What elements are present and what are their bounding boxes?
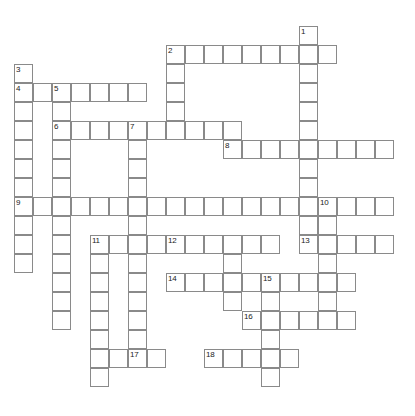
crossword-cell[interactable] <box>204 45 223 64</box>
crossword-cell[interactable] <box>109 197 128 216</box>
crossword-cell[interactable] <box>280 349 299 368</box>
crossword-cell[interactable] <box>90 349 109 368</box>
crossword-cell[interactable] <box>14 121 33 140</box>
crossword-cell[interactable] <box>242 45 261 64</box>
crossword-cell[interactable] <box>90 273 109 292</box>
crossword-cell[interactable] <box>223 121 242 140</box>
crossword-cell[interactable] <box>14 178 33 197</box>
crossword-cell[interactable] <box>90 292 109 311</box>
crossword-cell[interactable] <box>128 178 147 197</box>
crossword-cell[interactable] <box>128 83 147 102</box>
crossword-cell[interactable] <box>375 197 394 216</box>
crossword-cell[interactable] <box>318 292 337 311</box>
crossword-cell[interactable] <box>242 273 261 292</box>
crossword-cell[interactable] <box>166 235 185 254</box>
crossword-cell[interactable] <box>52 254 71 273</box>
crossword-cell[interactable] <box>280 311 299 330</box>
crossword-cell[interactable] <box>52 273 71 292</box>
crossword-cell[interactable] <box>318 273 337 292</box>
crossword-cell[interactable] <box>280 273 299 292</box>
crossword-cell[interactable] <box>223 292 242 311</box>
crossword-cell[interactable] <box>242 311 261 330</box>
crossword-cell[interactable] <box>166 83 185 102</box>
crossword-cell[interactable] <box>337 140 356 159</box>
crossword-cell[interactable] <box>52 197 71 216</box>
crossword-cell[interactable] <box>185 235 204 254</box>
crossword-cell[interactable] <box>147 349 166 368</box>
crossword-cell[interactable] <box>375 140 394 159</box>
crossword-cell[interactable] <box>33 83 52 102</box>
crossword-cell[interactable] <box>14 254 33 273</box>
crossword-cell[interactable] <box>318 235 337 254</box>
crossword-cell[interactable] <box>204 235 223 254</box>
crossword-cell[interactable] <box>299 159 318 178</box>
crossword-cell[interactable] <box>90 368 109 387</box>
crossword-cell[interactable] <box>52 159 71 178</box>
crossword-cell[interactable] <box>337 197 356 216</box>
crossword-cell[interactable] <box>128 159 147 178</box>
crossword-cell[interactable] <box>166 45 185 64</box>
crossword-cell[interactable] <box>90 311 109 330</box>
crossword-cell[interactable] <box>128 273 147 292</box>
crossword-cell[interactable] <box>90 197 109 216</box>
crossword-cell[interactable] <box>204 273 223 292</box>
crossword-cell[interactable] <box>109 235 128 254</box>
crossword-cell[interactable] <box>71 83 90 102</box>
crossword-cell[interactable] <box>128 140 147 159</box>
crossword-cell[interactable] <box>261 349 280 368</box>
crossword-cell[interactable] <box>185 273 204 292</box>
crossword-cell[interactable] <box>71 197 90 216</box>
crossword-cell[interactable] <box>299 311 318 330</box>
crossword-cell[interactable] <box>52 121 71 140</box>
crossword-cell[interactable] <box>14 159 33 178</box>
crossword-cell[interactable] <box>280 45 299 64</box>
crossword-cell[interactable] <box>261 311 280 330</box>
crossword-cell[interactable] <box>318 311 337 330</box>
crossword-cell[interactable] <box>299 216 318 235</box>
crossword-cell[interactable] <box>166 102 185 121</box>
crossword-grid[interactable]: 123456789101112131415161718 <box>0 0 415 416</box>
crossword-cell[interactable] <box>128 197 147 216</box>
crossword-cell[interactable] <box>14 235 33 254</box>
crossword-cell[interactable] <box>318 216 337 235</box>
crossword-cell[interactable] <box>185 121 204 140</box>
crossword-cell[interactable] <box>299 64 318 83</box>
crossword-cell[interactable] <box>185 197 204 216</box>
crossword-cell[interactable] <box>109 121 128 140</box>
crossword-cell[interactable] <box>185 45 204 64</box>
crossword-cell[interactable] <box>109 349 128 368</box>
crossword-cell[interactable] <box>52 235 71 254</box>
crossword-cell[interactable] <box>128 121 147 140</box>
crossword-cell[interactable] <box>299 178 318 197</box>
crossword-cell[interactable] <box>318 140 337 159</box>
crossword-cell[interactable] <box>90 83 109 102</box>
crossword-cell[interactable] <box>356 140 375 159</box>
crossword-cell[interactable] <box>356 197 375 216</box>
crossword-cell[interactable] <box>299 140 318 159</box>
crossword-cell[interactable] <box>356 235 375 254</box>
crossword-cell[interactable] <box>223 197 242 216</box>
crossword-cell[interactable] <box>14 140 33 159</box>
crossword-cell[interactable] <box>337 311 356 330</box>
crossword-cell[interactable] <box>261 235 280 254</box>
crossword-cell[interactable] <box>337 235 356 254</box>
crossword-cell[interactable] <box>261 140 280 159</box>
crossword-cell[interactable] <box>223 349 242 368</box>
crossword-cell[interactable] <box>261 197 280 216</box>
crossword-cell[interactable] <box>280 197 299 216</box>
crossword-cell[interactable] <box>33 197 52 216</box>
crossword-cell[interactable] <box>90 254 109 273</box>
crossword-cell[interactable] <box>147 197 166 216</box>
crossword-cell[interactable] <box>128 311 147 330</box>
crossword-cell[interactable] <box>299 197 318 216</box>
crossword-cell[interactable] <box>280 140 299 159</box>
crossword-cell[interactable] <box>14 102 33 121</box>
crossword-cell[interactable] <box>90 121 109 140</box>
crossword-cell[interactable] <box>299 26 318 45</box>
crossword-cell[interactable] <box>128 235 147 254</box>
crossword-cell[interactable] <box>261 330 280 349</box>
crossword-cell[interactable] <box>90 330 109 349</box>
crossword-cell[interactable] <box>242 349 261 368</box>
crossword-cell[interactable] <box>147 235 166 254</box>
crossword-cell[interactable] <box>242 197 261 216</box>
